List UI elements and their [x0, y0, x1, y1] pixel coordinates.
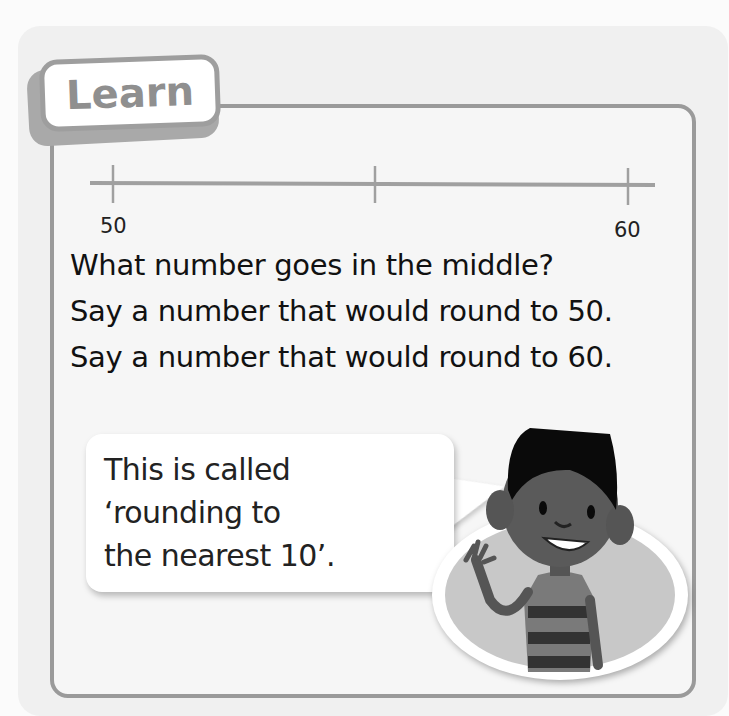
question-round-60: Say a number that would round to 60. — [70, 340, 613, 374]
tick-label-start: 50 — [100, 214, 127, 238]
shirt-stripe — [528, 632, 590, 644]
ear-right — [606, 505, 634, 545]
shirt-stripe — [528, 656, 590, 668]
learn-tab-label: Learn — [65, 68, 194, 118]
eye-right — [587, 505, 595, 519]
boy-character-illustration — [420, 410, 710, 690]
question-round-50: Say a number that would round to 50. — [70, 294, 613, 328]
tick-label-end: 60 — [614, 218, 641, 242]
speech-bubble: This is called ‘rounding to the nearest … — [86, 434, 454, 592]
eye-left — [539, 501, 547, 515]
ear-left — [486, 490, 514, 530]
speech-bubble-text: This is called ‘rounding to the nearest … — [104, 448, 335, 577]
shirt-stripe — [528, 606, 590, 618]
question-middle: What number goes in the middle? — [70, 248, 554, 282]
learn-tab: Learn — [39, 54, 221, 132]
